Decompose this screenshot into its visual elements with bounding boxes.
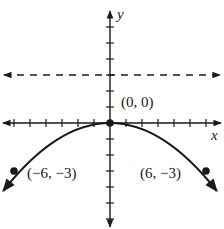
x-axis-label: x (210, 127, 218, 143)
vertex-point (106, 119, 114, 127)
left-point (10, 167, 18, 175)
parabola-graph: y x (0, 0) (−6, −3) (6, −3) (0, 0, 224, 229)
y-axis-label: y (115, 6, 124, 22)
vertex-label: (0, 0) (121, 94, 154, 111)
left-point-label: (−6, −3) (27, 165, 76, 182)
right-point-label: (6, −3) (140, 165, 181, 182)
right-point (202, 167, 210, 175)
